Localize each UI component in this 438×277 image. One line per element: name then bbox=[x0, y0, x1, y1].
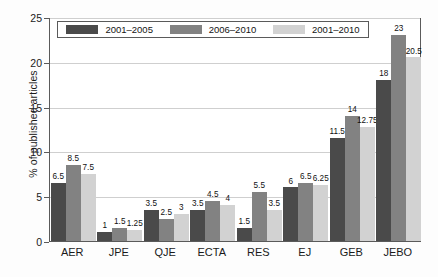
bar: 3.5 bbox=[144, 17, 159, 241]
bar-value-label: 3.5 bbox=[269, 200, 280, 208]
bar: 6.5 bbox=[298, 17, 313, 241]
x-axis-category-label: JEBO bbox=[383, 246, 412, 258]
bar: 4 bbox=[220, 17, 235, 241]
bar-value-label: 14 bbox=[348, 106, 357, 114]
bar-series-layer: 6.58.57.511.51.253.52.533.54.541.55.53.5… bbox=[50, 19, 420, 241]
bar-value-label: 11.5 bbox=[330, 128, 345, 136]
x-axis-category-label: GEB bbox=[340, 246, 363, 258]
plot-area: 6.58.57.511.51.253.52.533.54.541.55.53.5… bbox=[49, 18, 421, 242]
bar-rect bbox=[345, 116, 360, 241]
bar: 11.5 bbox=[330, 17, 345, 241]
bar: 20.5 bbox=[406, 17, 421, 241]
bar-rect bbox=[220, 205, 235, 241]
y-axis-tick-label: 5 bbox=[0, 191, 42, 203]
bar-value-label: 18 bbox=[379, 70, 388, 78]
bar-rect bbox=[298, 183, 313, 241]
y-axis-tick-label: 20 bbox=[0, 57, 42, 69]
bar-value-label: 1.5 bbox=[114, 218, 125, 226]
legend-item: 2001–2010 bbox=[265, 24, 368, 35]
bar-group: 11.51412.75 bbox=[329, 19, 376, 241]
bar: 1.5 bbox=[112, 17, 127, 241]
bar-value-label: 6.5 bbox=[53, 173, 64, 181]
bar-rect bbox=[376, 80, 391, 241]
bar-value-label: 4.5 bbox=[207, 191, 218, 199]
bar-value-label: 6.25 bbox=[313, 175, 329, 183]
bar-rect bbox=[97, 232, 112, 241]
bar-value-label: 6.5 bbox=[300, 173, 311, 181]
y-axis-tick-label: 25 bbox=[0, 12, 42, 24]
bar-value-label: 23 bbox=[394, 25, 403, 33]
bar: 12.75 bbox=[360, 17, 375, 241]
legend-item: 2006–2010 bbox=[161, 24, 264, 35]
bar-value-label: 2.5 bbox=[161, 209, 172, 217]
bar: 18 bbox=[376, 17, 391, 241]
legend-swatch bbox=[273, 25, 305, 34]
bar-group: 182320.5 bbox=[376, 19, 423, 241]
bar: 3.5 bbox=[267, 17, 282, 241]
bar: 5.5 bbox=[252, 17, 267, 241]
legend-label: 2006–2010 bbox=[209, 24, 257, 35]
bar-value-label: 1.5 bbox=[239, 218, 250, 226]
legend-label: 2001–2005 bbox=[105, 24, 153, 35]
x-axis-category-label: EJ bbox=[298, 246, 311, 258]
bar-value-label: 3 bbox=[179, 204, 184, 212]
bar-rect bbox=[205, 201, 220, 241]
bar-rect bbox=[406, 57, 421, 241]
bar: 3 bbox=[174, 17, 189, 241]
bar-rect bbox=[159, 219, 174, 241]
bar-value-label: 4 bbox=[225, 195, 230, 203]
legend-swatch bbox=[66, 25, 98, 34]
chart-legend: 2001–20052006–20102001–2010 bbox=[57, 21, 369, 38]
bar-rect bbox=[144, 210, 159, 241]
bar-group: 3.54.54 bbox=[190, 19, 237, 241]
bar-rect bbox=[174, 214, 189, 241]
bar-rect bbox=[330, 138, 345, 241]
bar: 3.5 bbox=[190, 17, 205, 241]
bar-group: 3.52.53 bbox=[143, 19, 190, 241]
bar-value-label: 3.5 bbox=[192, 200, 203, 208]
x-axis-category-label: QJE bbox=[155, 246, 176, 258]
bar-value-label: 3.5 bbox=[146, 200, 157, 208]
bar-rect bbox=[360, 127, 375, 241]
bar-rect bbox=[190, 210, 205, 241]
bar-value-label: 1.25 bbox=[127, 220, 143, 228]
bar-group: 6.58.57.5 bbox=[50, 19, 97, 241]
y-axis-tick-mark bbox=[44, 242, 49, 243]
bar-rect bbox=[112, 228, 127, 241]
bar: 7.5 bbox=[81, 17, 96, 241]
bar-rect bbox=[66, 165, 81, 241]
bar: 6.5 bbox=[51, 17, 66, 241]
bar-value-label: 1 bbox=[102, 222, 107, 230]
bar-chart-figure: % of published articles 0510152025 6.58.… bbox=[0, 0, 438, 277]
bar-rect bbox=[127, 230, 142, 241]
bar-value-label: 12.75 bbox=[357, 117, 378, 125]
bar-rect bbox=[391, 35, 406, 241]
bar-value-label: 7.5 bbox=[83, 164, 94, 172]
bar-rect bbox=[252, 192, 267, 241]
x-axis-category-label: AER bbox=[61, 246, 84, 258]
y-axis-tick-label: 15 bbox=[0, 102, 42, 114]
bar: 23 bbox=[391, 17, 406, 241]
bar: 6.25 bbox=[313, 17, 328, 241]
x-axis-category-label: RES bbox=[247, 246, 270, 258]
bar: 1.5 bbox=[237, 17, 252, 241]
bar-value-label: 6 bbox=[288, 178, 293, 186]
bar-rect bbox=[267, 210, 282, 241]
bar: 8.5 bbox=[66, 17, 81, 241]
y-axis-tick-label: 0 bbox=[0, 236, 42, 248]
y-axis-tick-label: 10 bbox=[0, 146, 42, 158]
bar-rect bbox=[81, 174, 96, 241]
bar: 6 bbox=[283, 17, 298, 241]
bar: 2.5 bbox=[159, 17, 174, 241]
bar: 1.25 bbox=[127, 17, 142, 241]
bar-group: 11.51.25 bbox=[97, 19, 144, 241]
bar-rect bbox=[313, 185, 328, 241]
bar: 1 bbox=[97, 17, 112, 241]
legend-swatch bbox=[170, 25, 202, 34]
bar-rect bbox=[283, 187, 298, 241]
bar-rect bbox=[237, 228, 252, 241]
bar-group: 1.55.53.5 bbox=[236, 19, 283, 241]
x-axis-category-label: ECTA bbox=[197, 246, 226, 258]
bar-value-label: 8.5 bbox=[68, 155, 79, 163]
bar: 14 bbox=[345, 17, 360, 241]
